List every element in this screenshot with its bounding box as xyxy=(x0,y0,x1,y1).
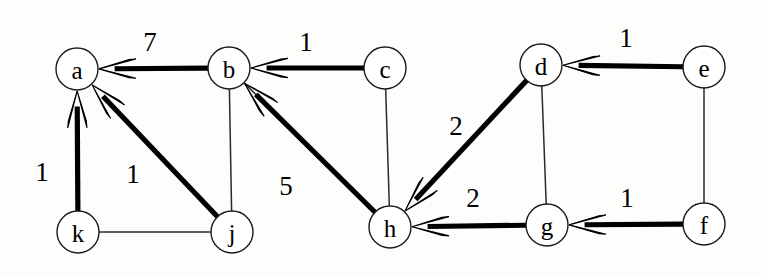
node-label-j: j xyxy=(228,220,236,247)
weight-label-e-d: 1 xyxy=(619,23,633,53)
graph-canvas: abcdefghjk 711115221 xyxy=(0,0,762,276)
edge-d-g-thin xyxy=(542,86,546,204)
node-g[interactable]: g xyxy=(526,204,568,246)
node-label-g: g xyxy=(541,213,554,240)
weight-label-c-b: 1 xyxy=(299,27,313,57)
arc-f-g xyxy=(569,215,683,234)
arc-shaft xyxy=(256,94,375,212)
arc-b-a xyxy=(99,59,208,78)
weight-label-h-b: 5 xyxy=(279,171,293,201)
node-label-k: k xyxy=(72,220,85,247)
arc-k-a xyxy=(68,91,87,211)
node-e[interactable]: e xyxy=(683,46,725,88)
arc-shaft xyxy=(103,96,218,217)
node-label-d: d xyxy=(535,53,548,80)
arc-e-d xyxy=(563,56,683,75)
arc-g-h xyxy=(412,217,526,236)
node-label-h: h xyxy=(384,215,397,242)
arc-shaft xyxy=(416,80,527,199)
arc-shaft xyxy=(428,225,526,226)
arc-shaft xyxy=(77,107,78,211)
node-label-b: b xyxy=(223,56,236,83)
arc-c-b xyxy=(251,58,364,77)
weight-label-b-a: 7 xyxy=(143,27,157,57)
weight-label-k-a: 1 xyxy=(35,157,49,187)
node-f[interactable]: f xyxy=(683,203,725,245)
arc-j-a xyxy=(92,85,217,217)
node-label-e: e xyxy=(698,55,709,82)
arc-shaft xyxy=(579,65,683,66)
node-c[interactable]: c xyxy=(364,47,406,89)
node-k[interactable]: k xyxy=(57,211,99,253)
graph-figure: abcdefghjk 711115221 xyxy=(0,0,762,276)
arc-shaft xyxy=(115,68,208,69)
weight-label-j-a: 1 xyxy=(126,159,140,189)
arc-shaft xyxy=(585,224,683,225)
weight-label-g-h: 2 xyxy=(466,183,480,213)
node-d[interactable]: d xyxy=(520,44,562,86)
arc-h-b xyxy=(245,83,375,212)
weight-label-d-h: 2 xyxy=(449,111,463,141)
edge-c-h-thin xyxy=(386,89,390,206)
node-a[interactable]: a xyxy=(56,48,98,90)
node-label-f: f xyxy=(700,212,709,239)
node-h[interactable]: h xyxy=(369,206,411,248)
node-label-a: a xyxy=(71,57,82,84)
node-j[interactable]: j xyxy=(211,211,253,253)
weight-label-f-g: 1 xyxy=(620,183,634,213)
node-b[interactable]: b xyxy=(208,47,250,89)
edge-b-j-thin xyxy=(229,89,231,211)
node-label-c: c xyxy=(379,56,390,83)
nodes-layer: abcdefghjk xyxy=(56,44,725,253)
